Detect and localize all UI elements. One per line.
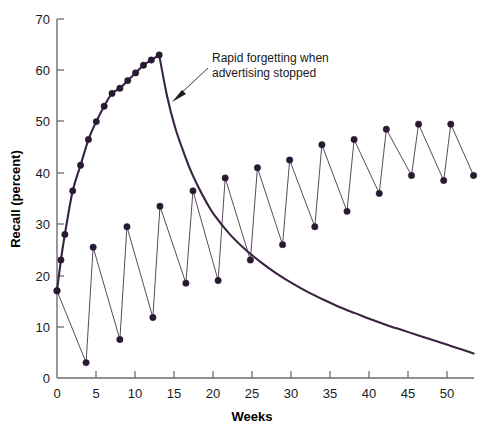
data-point — [415, 121, 421, 127]
data-point — [279, 241, 285, 247]
data-point — [351, 136, 357, 142]
data-point — [470, 172, 476, 178]
data-point — [190, 188, 196, 194]
pulsed-series-group — [57, 124, 474, 362]
data-point — [125, 77, 131, 83]
data-point — [101, 103, 107, 109]
y-tick-label: 30 — [36, 217, 50, 232]
data-point-markers — [54, 52, 477, 366]
data-point — [62, 231, 68, 237]
data-point — [319, 141, 325, 147]
pulsed-recall-line — [57, 124, 474, 362]
data-point — [150, 314, 156, 320]
data-point — [156, 52, 162, 58]
y-tick-label: 70 — [36, 12, 50, 27]
data-point — [117, 85, 123, 91]
annotation-arrow — [172, 68, 208, 102]
data-point — [247, 257, 253, 263]
annotation-label-line2: advertising stopped — [212, 66, 316, 80]
data-point — [70, 188, 76, 194]
x-tick-label: 30 — [284, 386, 298, 401]
data-point — [408, 172, 414, 178]
y-tick-label: 40 — [36, 166, 50, 181]
x-tick-label: 0 — [53, 386, 60, 401]
y-tick-label: 60 — [36, 63, 50, 78]
data-point — [183, 280, 189, 286]
data-point — [93, 118, 99, 124]
data-point — [376, 190, 382, 196]
data-point — [85, 136, 91, 142]
data-point — [312, 224, 318, 230]
chart-canvas: 70 60 50 40 30 20 10 0 0 5 10 15 — [0, 0, 483, 429]
data-point — [448, 121, 454, 127]
x-tick-label: 50 — [440, 386, 454, 401]
data-point — [124, 224, 130, 230]
y-tick-label: 50 — [36, 114, 50, 129]
data-point — [58, 257, 64, 263]
annotation-label-line1: Rapid forgetting when — [212, 51, 329, 65]
data-point — [109, 90, 115, 96]
data-point — [441, 177, 447, 183]
data-point — [77, 162, 83, 168]
recall-chart: 70 60 50 40 30 20 10 0 0 5 10 15 — [0, 0, 483, 429]
x-tick-labels: 0 5 10 15 20 25 30 35 40 45 50 — [53, 386, 454, 401]
x-tick-label: 20 — [206, 386, 220, 401]
data-point — [344, 208, 350, 214]
data-point — [222, 175, 228, 181]
continuous-recall-rise — [57, 55, 159, 291]
data-point — [90, 244, 96, 250]
x-tick-label: 35 — [323, 386, 337, 401]
y-tick-label: 0 — [43, 371, 50, 386]
data-point — [117, 336, 123, 342]
x-tick-label: 45 — [401, 386, 415, 401]
data-point — [215, 277, 221, 283]
data-point — [132, 70, 138, 76]
data-point — [254, 165, 260, 171]
data-point — [286, 157, 292, 163]
x-tick-label: 15 — [167, 386, 181, 401]
data-point — [83, 359, 89, 365]
data-point — [383, 126, 389, 132]
data-point — [148, 57, 154, 63]
x-tick-marks — [96, 371, 447, 378]
x-tick-label: 25 — [245, 386, 259, 401]
data-point — [157, 203, 163, 209]
data-point — [54, 288, 60, 294]
y-tick-labels: 70 60 50 40 30 20 10 0 — [36, 12, 50, 386]
x-tick-label: 10 — [128, 386, 142, 401]
continuous-series-group — [57, 55, 474, 353]
x-axis-title: Weeks — [232, 409, 273, 424]
y-axis-title: Recall (percent) — [8, 150, 23, 248]
x-tick-label: 5 — [92, 386, 99, 401]
y-tick-label: 20 — [36, 269, 50, 284]
x-tick-label: 40 — [362, 386, 376, 401]
y-tick-label: 10 — [36, 320, 50, 335]
data-point — [140, 62, 146, 68]
